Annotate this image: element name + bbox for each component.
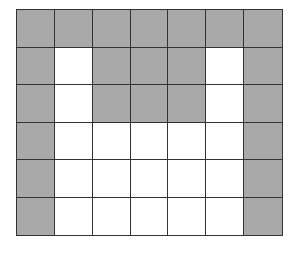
shaded-cell xyxy=(17,198,55,236)
shaded-cell xyxy=(206,10,244,48)
shaded-cell xyxy=(244,85,282,123)
shaded-cell xyxy=(93,85,131,123)
shaded-cell xyxy=(93,10,131,48)
shaded-cell xyxy=(17,160,55,198)
empty-cell xyxy=(93,160,131,198)
empty-cell xyxy=(168,198,206,236)
empty-cell xyxy=(168,123,206,161)
empty-cell xyxy=(206,160,244,198)
shaded-cell xyxy=(55,10,93,48)
shaded-grid xyxy=(16,9,283,236)
shaded-cell xyxy=(131,85,169,123)
shaded-cell xyxy=(168,10,206,48)
shaded-cell xyxy=(244,10,282,48)
empty-cell xyxy=(55,48,93,86)
shaded-cell xyxy=(244,48,282,86)
shaded-cell xyxy=(244,160,282,198)
shaded-cell xyxy=(168,48,206,86)
empty-cell xyxy=(206,198,244,236)
shaded-cell xyxy=(244,123,282,161)
empty-cell xyxy=(206,123,244,161)
empty-cell xyxy=(206,85,244,123)
empty-cell xyxy=(55,85,93,123)
shaded-cell xyxy=(17,10,55,48)
shaded-cell xyxy=(168,85,206,123)
empty-cell xyxy=(168,160,206,198)
empty-cell xyxy=(55,198,93,236)
empty-cell xyxy=(206,48,244,86)
empty-cell xyxy=(131,160,169,198)
empty-cell xyxy=(131,198,169,236)
empty-cell xyxy=(55,123,93,161)
empty-cell xyxy=(93,123,131,161)
empty-cell xyxy=(55,160,93,198)
shaded-cell xyxy=(17,48,55,86)
empty-cell xyxy=(93,198,131,236)
shaded-cell xyxy=(93,48,131,86)
shaded-cell xyxy=(131,48,169,86)
shaded-cell xyxy=(17,85,55,123)
empty-cell xyxy=(131,123,169,161)
shaded-cell xyxy=(244,198,282,236)
shaded-cell xyxy=(131,10,169,48)
shaded-cell xyxy=(17,123,55,161)
